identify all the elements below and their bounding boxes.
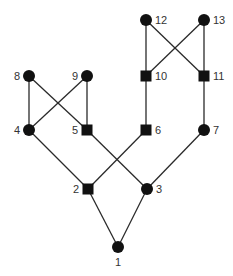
lattice-diagram: 12345678910111213 xyxy=(0,0,233,276)
node-label-7: 7 xyxy=(213,124,219,136)
edge-2-1 xyxy=(88,189,118,247)
square-node-6 xyxy=(141,125,152,136)
edge-4-2 xyxy=(29,130,88,189)
node-label-10: 10 xyxy=(155,70,167,82)
square-node-10 xyxy=(141,71,152,82)
square-node-2 xyxy=(83,184,94,195)
circle-node-13 xyxy=(198,14,210,26)
edge-3-1 xyxy=(118,189,147,247)
square-node-5 xyxy=(82,125,93,136)
node-label-1: 1 xyxy=(115,256,121,268)
circle-node-12 xyxy=(140,14,152,26)
circle-node-7 xyxy=(198,124,210,136)
edges-group xyxy=(29,20,204,247)
node-label-9: 9 xyxy=(72,70,78,82)
node-label-6: 6 xyxy=(155,124,161,136)
node-label-12: 12 xyxy=(155,14,167,26)
circle-node-8 xyxy=(23,70,35,82)
node-label-11: 11 xyxy=(213,70,224,82)
nodes-group xyxy=(23,14,210,253)
square-node-11 xyxy=(199,71,210,82)
node-label-3: 3 xyxy=(156,183,162,195)
node-label-4: 4 xyxy=(14,124,20,136)
circle-node-3 xyxy=(141,183,153,195)
circle-node-4 xyxy=(23,124,35,136)
node-label-13: 13 xyxy=(213,14,225,26)
node-label-5: 5 xyxy=(72,124,78,136)
circle-node-9 xyxy=(81,70,93,82)
node-label-8: 8 xyxy=(14,70,20,82)
node-label-2: 2 xyxy=(73,183,79,195)
edge-7-3 xyxy=(147,130,204,189)
circle-node-1 xyxy=(112,241,124,253)
